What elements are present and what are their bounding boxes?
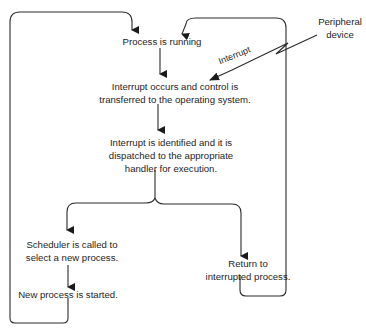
node-text: New process is started. xyxy=(18,289,118,300)
node-text: Process is running xyxy=(123,36,202,47)
node-text: Interrupt is identified and it is xyxy=(96,136,246,149)
node-scheduler: Scheduler is called to select a new proc… xyxy=(20,238,124,264)
node-new-process: New process is started. xyxy=(16,288,120,301)
node-text: Scheduler is called to xyxy=(20,238,124,251)
node-return: Return to interrupted process. xyxy=(200,257,296,283)
node-process-running: Process is running xyxy=(110,35,214,48)
node-text: Peripheral xyxy=(312,15,366,28)
node-text: dispatched to the appropriate xyxy=(96,149,246,162)
node-text: transferred to the operating system. xyxy=(90,93,260,106)
node-text: select a new process. xyxy=(20,251,124,264)
node-text: Interrupt occurs and control is xyxy=(90,80,260,93)
node-text: Return to xyxy=(200,257,296,270)
node-text: handler for execution. xyxy=(96,162,246,175)
node-text: interrupted process. xyxy=(200,270,296,283)
node-peripheral-device: Peripheral device xyxy=(312,15,366,41)
node-text: device xyxy=(312,28,366,41)
node-interrupt-occurs: Interrupt occurs and control is transfer… xyxy=(90,80,260,106)
node-interrupt-identified: Interrupt is identified and it is dispat… xyxy=(96,136,246,175)
